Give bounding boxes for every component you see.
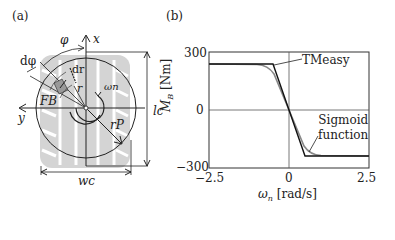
tmeasy-annotation: TMeasy [302, 54, 349, 66]
xtick-0: 0 [285, 172, 293, 184]
xtick-2.5: 2.5 [357, 172, 376, 184]
x-axis-title: ωn [rad/s] [258, 188, 317, 203]
sigmoid-annotation: Sigmoidfunction [318, 113, 368, 143]
ytick-300: 300 [184, 47, 207, 59]
ytick-0: 0 [196, 104, 204, 116]
y-axis-title: MB [Nm] [160, 59, 175, 112]
xtick-neg2.5: −2.5 [195, 172, 224, 184]
